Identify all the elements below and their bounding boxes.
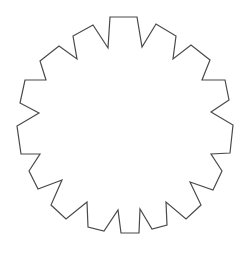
gear-diagram [0, 0, 249, 254]
gear-outline-shape [17, 17, 233, 233]
diagram-canvas [0, 0, 249, 254]
